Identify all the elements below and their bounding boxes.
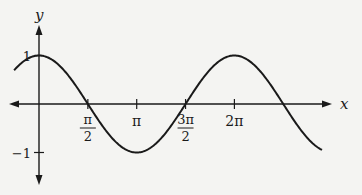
x-axis-left-arrow [9, 101, 19, 108]
x-tick-label: 2π [225, 113, 243, 129]
x-tick-label: π [132, 113, 141, 129]
x-axis-right-arrow [322, 101, 332, 108]
x-tick-label-denominator: 2 [181, 129, 189, 144]
y-axis-top-arrow [36, 25, 43, 35]
y-axis-bottom-arrow [36, 175, 43, 185]
x-tick-label-numerator: π [84, 112, 93, 127]
x-axis-label: x [340, 95, 349, 113]
y-tick-label: −1 [12, 146, 31, 161]
cosine-chart: π2π3π22π1−1 x y [0, 0, 362, 195]
x-tick-label-denominator: 2 [84, 129, 92, 144]
y-axis-label: y [34, 6, 44, 24]
